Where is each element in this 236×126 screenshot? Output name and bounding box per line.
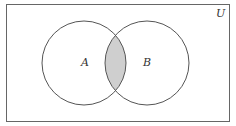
venn-diagram: A B U	[0, 0, 236, 126]
universe-label: U	[216, 7, 226, 20]
set-a-label: A	[80, 56, 89, 69]
set-b-label: B	[142, 56, 151, 69]
